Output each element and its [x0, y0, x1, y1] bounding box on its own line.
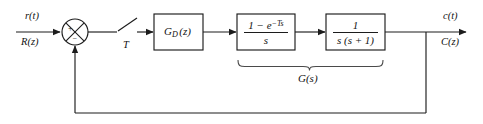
- controller-label-main: G: [164, 25, 172, 37]
- sampler-arm: [118, 18, 137, 31]
- zoh-denominator: s: [244, 33, 288, 46]
- plant-denominator: s (s + 1): [333, 33, 378, 46]
- controller-block-label: GD(z): [164, 26, 191, 39]
- controller-label-subscript: D: [172, 30, 178, 39]
- plant-transfer-function: 1 s (s + 1): [333, 19, 378, 47]
- input-label-time-domain: r(t): [25, 11, 39, 22]
- controller-label-argument: (z): [179, 25, 191, 37]
- zoh-numerator-base: 1 − e: [248, 19, 271, 31]
- output-label-z-domain: C(z): [441, 37, 459, 48]
- group-brace-label: G(s): [298, 73, 318, 84]
- plant-numerator: 1: [333, 19, 378, 32]
- group-brace-path: [238, 60, 383, 71]
- zoh-numerator-exponent: −Ts: [272, 19, 284, 28]
- zoh-transfer-function: 1 − e−Ts s: [244, 19, 288, 47]
- input-label-z-domain: R(z): [21, 37, 39, 48]
- summing-junction-minus-sign: −: [73, 35, 78, 43]
- block-diagram-canvas: r(t) R(z) + − T GD(z) 1 − e−Ts s 1 s (s …: [0, 0, 483, 124]
- output-label-time-domain: c(t): [443, 11, 458, 22]
- zoh-numerator: 1 − e−Ts: [244, 19, 288, 32]
- diagram-vector-layer: [0, 0, 483, 124]
- summing-junction-plus-sign: +: [68, 25, 73, 33]
- sampler-period-label: T: [123, 40, 129, 51]
